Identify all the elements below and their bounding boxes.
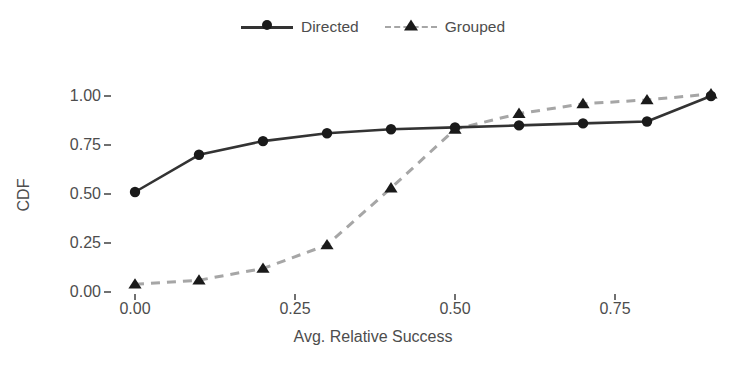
x-tick-label-0: 0.00	[119, 300, 150, 318]
plot-svg	[0, 0, 746, 367]
data-point-directed-2	[258, 136, 268, 146]
data-point-directed-9	[706, 91, 716, 101]
data-point-directed-8	[642, 116, 652, 126]
x-tick-label-1: 0.25	[279, 300, 310, 318]
y-axis-label: CDF	[15, 179, 33, 212]
x-axis-label: Avg. Relative Success	[0, 328, 746, 346]
y-tick-label-1: 0.25	[70, 234, 101, 252]
data-point-directed-5	[450, 122, 460, 132]
data-point-directed-7	[578, 118, 588, 128]
data-point-directed-4	[386, 124, 396, 134]
data-point-directed-1	[194, 150, 204, 160]
data-point-directed-0	[130, 187, 140, 197]
data-point-grouped-3	[320, 239, 333, 249]
y-tick-label-3: 0.75	[70, 136, 101, 154]
data-point-directed-6	[514, 120, 524, 130]
y-tick-label-2: 0.50	[70, 185, 101, 203]
plot-panel: 0.000.250.500.751.00 0.000.250.500.75 CD…	[0, 0, 746, 367]
y-tick-label-0: 0.00	[70, 283, 101, 301]
series-line-directed	[135, 96, 711, 192]
x-tick-label-2: 0.50	[439, 300, 470, 318]
data-point-directed-3	[322, 128, 332, 138]
y-tick-label-4: 1.00	[70, 87, 101, 105]
y-axis-tick-labels: 0.000.250.500.751.00	[55, 0, 101, 367]
cdf-chart-figure: Directed Grouped 0.000.250.500.751.00 0.…	[0, 0, 746, 367]
x-tick-label-3: 0.75	[599, 300, 630, 318]
